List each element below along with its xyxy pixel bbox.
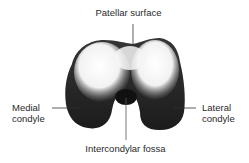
medial-label-line1: Medial [12,102,45,113]
patellar-surface-text: Patellar surface [95,7,161,18]
lateral-label-line1: Lateral [202,102,235,113]
intercondylar-fossa-label: Intercondylar fossa [0,143,249,154]
medial-label-line2: condyle [12,113,45,124]
lateral-label-line2: condyle [202,113,235,124]
femur-diagram [0,0,249,163]
intercondylar-fossa-text: Intercondylar fossa [85,143,165,154]
lateral-condyle-label: Lateral condyle [202,102,235,124]
patellar-groove [114,46,146,70]
medial-condyle-label: Medial condyle [12,102,45,124]
femur-bone [65,38,185,130]
patellar-surface-label: Patellar surface [0,7,249,18]
